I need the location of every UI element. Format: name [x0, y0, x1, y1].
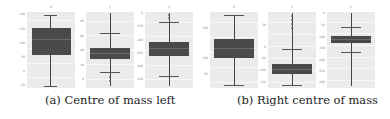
y-tick-label: 50 — [196, 72, 208, 76]
whisker-cap-top — [282, 49, 302, 50]
y-tick-label: -150 — [131, 24, 143, 28]
boxplot-a3 — [145, 12, 193, 88]
y-tick-label: 40 — [72, 48, 84, 52]
y-tick-label: -250 — [131, 51, 143, 55]
outlier-point — [291, 23, 293, 25]
y-tick-label: -350 — [131, 77, 143, 81]
y-tick-label: -250 — [313, 69, 325, 73]
y-tick-label: -100 — [254, 68, 266, 72]
outlier-point — [168, 14, 170, 16]
y-tick-label: 200 — [13, 12, 25, 16]
outlier-point — [168, 17, 170, 19]
y-tick-label: 60 — [72, 34, 84, 38]
outlier-point — [291, 15, 293, 17]
y-tick-label: 0 — [313, 11, 325, 15]
y-tick-label: -50 — [254, 56, 266, 60]
caption-a: (a) Centre of mass left — [45, 93, 176, 107]
y-tick-label: -200 — [313, 58, 325, 62]
outlier-point — [291, 19, 293, 21]
median-line — [90, 53, 130, 54]
y-tick-label: -300 — [313, 80, 325, 84]
whisker-cap-bottom — [100, 72, 120, 73]
x-tick-label: 2 — [346, 5, 356, 9]
iqr-box — [32, 28, 71, 55]
whisker-cap-bottom — [224, 85, 244, 86]
boxplot-b1 — [210, 12, 258, 88]
whisker-cap-bottom — [341, 52, 361, 53]
whisker — [351, 13, 352, 86]
y-tick-label: 50 — [13, 55, 25, 59]
y-tick-label: -100 — [313, 35, 325, 39]
caption-b: (b) Right centre of mass — [237, 93, 378, 107]
panel-a: 0 200 150 100 50 0 -50 1 80 60 40 20 0 2… — [0, 0, 195, 119]
y-tick-label: 150 — [13, 27, 25, 31]
y-tick-label: -50 — [13, 83, 25, 87]
outlier-point — [109, 80, 111, 82]
median-line — [32, 39, 71, 40]
boxplot-b2 — [268, 12, 316, 88]
whisker-cap-top — [44, 15, 57, 16]
whisker-cap-bottom — [159, 76, 179, 77]
whisker-cap-bottom — [282, 85, 302, 86]
y-tick-label: 80 — [72, 19, 84, 23]
x-tick-label: 1 — [287, 5, 297, 9]
median-line — [272, 69, 312, 70]
whisker-cap-top — [100, 33, 120, 34]
boxplot-b3 — [327, 12, 375, 88]
whisker-cap-top — [224, 15, 244, 16]
x-tick-label: 0 — [229, 5, 239, 9]
x-tick-label: 0 — [46, 5, 56, 9]
median-line — [149, 48, 189, 49]
y-tick-label: 0 — [72, 77, 84, 81]
whisker-cap-bottom — [44, 86, 57, 87]
y-tick-label: -150 — [313, 46, 325, 50]
y-tick-label: -50 — [313, 23, 325, 27]
y-tick-label: 0 — [254, 45, 266, 49]
panel-b: 0 150 100 50 1 50 0 -50 -100 -150 2 0 -5… — [195, 0, 390, 119]
median-line — [331, 39, 371, 40]
boxplot-a2 — [86, 12, 134, 88]
y-tick-label: -200 — [131, 38, 143, 42]
y-tick-label: 50 — [254, 23, 266, 27]
whisker-cap-top — [159, 22, 179, 23]
boxplot-a1 — [27, 12, 75, 88]
outlier-point — [109, 76, 111, 78]
y-tick-label: 0 — [13, 69, 25, 73]
y-tick-label: 0 — [131, 11, 143, 15]
iqr-box — [149, 42, 189, 56]
x-tick-label: 1 — [105, 5, 115, 9]
y-tick-label: 100 — [13, 41, 25, 45]
y-tick-label: 20 — [72, 63, 84, 67]
outlier-point — [291, 27, 293, 29]
x-tick-label: 2 — [164, 5, 174, 9]
whisker-cap-top — [341, 27, 361, 28]
y-tick-label: -150 — [254, 80, 266, 84]
median-line — [214, 48, 254, 49]
y-tick-label: 150 — [196, 26, 208, 30]
y-tick-label: 100 — [196, 56, 208, 60]
y-tick-label: -300 — [131, 64, 143, 68]
